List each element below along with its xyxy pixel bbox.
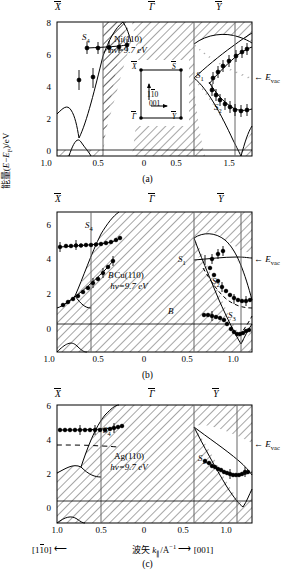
top-symbol-gamma-c: Γ [141,389,163,399]
x-tick-a-1: 0.5 [85,158,111,168]
y-tick-b-1: 4 [29,254,51,264]
x-bar-symbol: X [55,2,61,12]
band-label-b-right-b: B [168,306,174,316]
evac-arrow-c: ← [254,439,263,449]
y-tick-c-0: 6 [29,401,51,411]
panel-b: X Γ Y 6 4 2 0 [0,192,295,387]
photon-energy-b: hν=9.7 eV [110,281,148,291]
band-label-s1-b: S1 [178,254,186,266]
material-label-a: Ni(110) hν=9.7 eV [98,34,158,57]
inset-dir-vertical-a: 110 [147,90,158,99]
evac-arrow-a: ← [254,72,263,82]
axis-caption-wavevector-text: 波矢 [132,545,150,555]
left-direction-arrow: ⟵ [54,543,67,553]
band-label-s4-a: S4 [82,32,90,44]
y-tick-a-0: 8 [29,18,51,28]
x-tick-c-4: 1.0 [213,525,239,535]
y-tick-a-2: 4 [29,82,51,92]
right-direction-arrow: ⟶ [178,543,191,553]
band-label-s3-b: S3 [228,310,236,322]
panel-tag-b: (b) [0,370,295,380]
band-label-s1-a: S1 [196,70,204,82]
top-symbol-y-a: Y [208,2,230,12]
band-label-s4-c: S4 [103,425,111,437]
band-label-s4-b: S4 [85,220,93,232]
x-tick-c-3: 0.5 [170,525,196,535]
x-tick-c-2: 0 [131,525,157,535]
y-tick-b-2: 2 [29,289,51,299]
y-tick-b-3: 0 [29,324,51,334]
band-label-s2-a: S2 [214,102,222,114]
top-symbol-x-a: X [47,2,69,12]
top-symbol-gamma-a: Γ [141,2,163,12]
y-tick-c-2: 2 [29,469,51,479]
top-symbol-y-c: Y [205,389,227,399]
evac-label-c: ← Evac [254,439,280,451]
gamma-bar-symbol: Γ [149,2,154,12]
y-tick-c-3: 0 [29,503,51,513]
x-tick-b-0: 1.0 [36,354,62,364]
top-symbol-x-b: X [47,194,69,204]
evac-arrow-b: ← [254,254,263,264]
x-tick-c-1: 0.5 [88,525,114,535]
panel-tag-c: (c) [0,559,295,569]
y-bar-symbol: Y [216,2,221,12]
y-tick-b-0: 6 [29,220,51,230]
inset-dir-horizontal-a: 001 [149,99,160,108]
axis-caption-center: 波矢 k∥/Å−1 ⟶ [001] [132,543,213,558]
band-label-b-left-b: B [108,270,114,280]
top-symbol-y-b: Y [210,194,232,204]
inset-corner-gamma-a: Γ [132,112,136,121]
photon-energy-a: hν=9.7 eV [109,45,147,55]
axis-caption-left-direction: [110] ⟵ [32,543,67,555]
panel-a: X Γ Y 8 6 4 2 0 [0,0,295,192]
material-name-b: Cu(110) [114,270,144,280]
x-tick-a-0: 1.0 [33,158,59,168]
axis-caption-right-direction: [001] [194,545,214,555]
y-tick-a-3: 2 [29,114,51,124]
inset-corner-y-a: Y [172,112,176,121]
y-tick-a-1: 6 [29,50,51,60]
evac-label-a: ← Evac [254,72,280,84]
x-tick-a-2: 0 [131,158,157,168]
top-symbol-x-c: X [47,389,69,399]
material-name-a: Ni(110) [114,34,142,44]
x-tick-b-4: 1.0 [220,354,246,364]
y-tick-c-1: 4 [29,435,51,445]
top-symbol-gamma-b: Γ [141,194,163,204]
photon-energy-c: hν=9.7 eV [110,462,148,472]
band-label-s2-c: S2 [198,453,206,465]
x-tick-a-4: 1.5 [216,158,242,168]
x-tick-c-0: 1.0 [44,525,70,535]
x-tick-b-3: 0.5 [174,354,200,364]
figure-root: 能量(E−EF)/eV X Γ Y 8 6 4 2 0 [0,0,295,575]
y-tick-a-4: 0 [29,146,51,156]
material-label-c: Ag(110) hν=9.7 eV [98,451,160,474]
panel-c: X Γ Y 6 4 2 0 [0,387,295,575]
material-name-c: Ag(110) [114,451,144,461]
panel-tag-a: (a) [0,174,295,184]
x-tick-b-2: 0 [131,354,157,364]
inset-corner-s-a: S [172,62,176,71]
band-label-s2-b: S2 [212,276,220,288]
inset-corner-x-a: X [132,62,137,71]
evac-label-b: ← Evac [254,254,280,266]
x-tick-a-3: 0.5 [163,158,189,168]
x-tick-b-1: 0.5 [85,354,111,364]
